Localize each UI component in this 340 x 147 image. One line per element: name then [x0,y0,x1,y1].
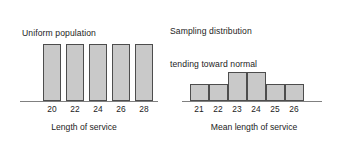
bar-sampling-21 [190,84,209,101]
bar-sampling-22 [209,84,228,101]
statistics-figure: Uniform population 20 22 24 26 28 Length… [0,0,340,147]
bar-uniform-20 [43,44,61,101]
tick-label-left-3: 26 [111,104,131,115]
uniform-population-panel: Uniform population 20 22 24 26 28 Length… [0,0,168,147]
tick-label-right-1: 22 [208,104,228,115]
x-axis-caption-left: Length of service [0,122,168,133]
bar-sampling-23 [228,72,247,101]
x-axis-line-left [20,101,158,102]
tick-label-right-5: 26 [284,104,304,115]
tick-label-left-0: 20 [42,104,62,115]
tick-label-right-0: 21 [189,104,209,115]
bar-sampling-26 [285,84,304,101]
x-axis-line-right [182,101,322,102]
tick-label-left-4: 28 [134,104,154,115]
tick-label-left-2: 24 [88,104,108,115]
tick-label-right-3: 24 [246,104,266,115]
bar-uniform-24 [89,44,107,101]
x-axis-caption-right: Mean length of service [168,122,340,133]
tick-label-right-2: 23 [227,104,247,115]
bar-uniform-28 [135,44,153,101]
sampling-distribution-plot: 21 22 23 24 25 26 Mean length of service [168,0,340,147]
bar-sampling-25 [266,84,285,101]
bar-uniform-26 [112,44,130,101]
tick-label-left-1: 22 [65,104,85,115]
tick-label-right-4: 25 [265,104,285,115]
sampling-distribution-panel: Sampling distribution tending toward nor… [168,0,340,147]
uniform-population-plot: 20 22 24 26 28 Length of service [0,0,168,147]
bar-sampling-24 [247,72,266,101]
bar-uniform-22 [66,44,84,101]
